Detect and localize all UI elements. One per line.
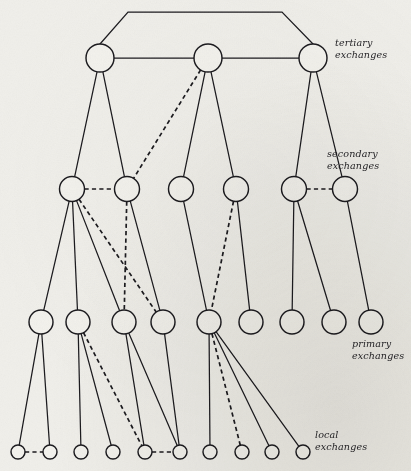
node-secondary-s5[interactable] xyxy=(282,177,307,202)
edge-s5-p7 xyxy=(292,202,294,311)
node-local-l1[interactable] xyxy=(11,445,25,459)
edge-t3-s5 xyxy=(296,72,311,177)
node-local-l8[interactable] xyxy=(235,445,249,459)
node-primary-p1[interactable] xyxy=(29,310,53,334)
node-secondary-s2[interactable] xyxy=(115,177,140,202)
network-diagram: tertiaryexchangessecondaryexchangesprima… xyxy=(0,0,411,471)
label-line-2: exchanges xyxy=(315,441,367,452)
node-primary-p5[interactable] xyxy=(197,310,221,334)
edge-s5-p8 xyxy=(298,201,331,311)
node-local-l5[interactable] xyxy=(138,445,152,459)
node-primary-p3[interactable] xyxy=(112,310,136,334)
edge-p5-l7 xyxy=(209,334,210,445)
edge-s4-p6 xyxy=(237,201,249,310)
node-primary-p2[interactable] xyxy=(66,310,90,334)
label-tertiary-exchanges: tertiaryexchanges xyxy=(335,37,387,60)
edge-t2-s2 xyxy=(134,70,201,178)
edge-p2-l3 xyxy=(78,334,81,445)
node-local-l3[interactable] xyxy=(74,445,88,459)
edge-s2-p3 xyxy=(124,202,126,311)
node-tertiary-t3[interactable] xyxy=(299,44,327,72)
edge-t1-s2 xyxy=(103,72,125,177)
label-local-exchanges: localexchanges xyxy=(315,429,367,452)
edge-p2-l4 xyxy=(81,334,111,446)
node-secondary-s4[interactable] xyxy=(224,177,249,202)
edge-t2-s4 xyxy=(211,72,233,177)
label-line-1: tertiary xyxy=(335,37,373,48)
node-tertiary-t1[interactable] xyxy=(86,44,114,72)
node-local-l10[interactable] xyxy=(296,445,310,459)
label-layer: tertiaryexchangessecondaryexchangesprima… xyxy=(315,37,404,452)
node-local-l9[interactable] xyxy=(265,445,279,459)
label-primary-exchanges: primaryexchanges xyxy=(352,338,404,361)
node-secondary-s1[interactable] xyxy=(60,177,85,202)
edge-p5-l9 xyxy=(214,333,269,446)
node-layer xyxy=(11,44,383,459)
edge-s1-p3 xyxy=(77,201,120,311)
label-line-2: exchanges xyxy=(327,160,379,171)
edge-p1-l1 xyxy=(19,334,39,445)
node-tertiary-t2[interactable] xyxy=(194,44,222,72)
node-primary-p6[interactable] xyxy=(239,310,263,334)
node-primary-p4[interactable] xyxy=(151,310,175,334)
edge-p3-l5 xyxy=(126,334,144,445)
node-local-l7[interactable] xyxy=(203,445,217,459)
node-secondary-s3[interactable] xyxy=(169,177,194,202)
edge-s1-p1 xyxy=(44,201,69,310)
edge-s4-p5 xyxy=(211,201,233,310)
edge-p1-l2 xyxy=(42,334,50,445)
edge-bypass-t1-t3 xyxy=(100,12,313,44)
label-line-2: exchanges xyxy=(352,350,404,361)
edge-p2-l5 xyxy=(84,333,142,446)
label-line-1: secondary xyxy=(327,148,378,159)
label-line-1: primary xyxy=(352,338,392,349)
label-secondary-exchanges: secondaryexchanges xyxy=(327,148,379,171)
node-primary-p7[interactable] xyxy=(280,310,304,334)
edge-s6-p9 xyxy=(347,201,368,310)
edge-s3-p5 xyxy=(184,201,207,310)
edge-t1-s1 xyxy=(75,72,97,177)
edge-s1-p2 xyxy=(73,201,78,310)
label-line-2: exchanges xyxy=(335,49,387,60)
edge-p3-l6 xyxy=(129,333,177,446)
node-primary-p8[interactable] xyxy=(322,310,346,334)
node-primary-p9[interactable] xyxy=(359,310,383,334)
edge-p4-l6 xyxy=(165,334,180,445)
edge-t2-s3 xyxy=(184,72,206,177)
edge-p5-l8 xyxy=(212,334,240,446)
edge-p5-l10 xyxy=(216,332,299,447)
node-local-l6[interactable] xyxy=(173,445,187,459)
node-local-l2[interactable] xyxy=(43,445,57,459)
edge-layer xyxy=(19,12,368,452)
node-local-l4[interactable] xyxy=(106,445,120,459)
network-diagram-canvas: tertiaryexchangessecondaryexchangesprima… xyxy=(0,0,411,471)
label-line-1: local xyxy=(315,429,339,440)
edge-s2-p4 xyxy=(130,201,160,310)
node-secondary-s6[interactable] xyxy=(333,177,358,202)
